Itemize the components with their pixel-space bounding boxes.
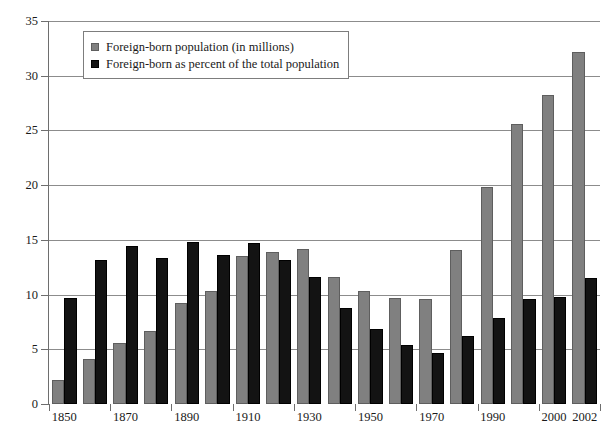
legend-label-population: Foreign-born population (in millions) [106,40,294,54]
y-axis-label: 30 [0,70,38,82]
gray-square-icon [91,43,99,51]
bar-percent [370,329,382,405]
bar-percent [462,336,474,404]
bar-population [328,277,340,404]
bar-percent [585,278,597,404]
x-axis-tick [294,404,295,411]
bar-population [389,298,401,404]
bar-chart: 05101520253035 1850187018901910193019501… [0,0,615,425]
bar-percent [64,298,76,404]
legend-item-population: Foreign-born population (in millions) [91,38,339,55]
bar-percent [554,297,566,404]
y-axis-label: 25 [0,124,38,136]
bar-population [358,291,370,404]
x-axis-tick [355,404,356,411]
legend-label-percent: Foreign-born as percent of the total pop… [106,57,339,71]
x-axis-tick [478,404,479,411]
bar-percent [248,243,260,404]
bar-population [542,95,554,404]
bar-population [511,124,523,404]
x-axis-label: 1990 [480,411,505,424]
x-axis-tick [49,404,50,411]
bar-population [52,380,64,404]
y-axis-label: 0 [0,398,38,410]
y-axis-label: 10 [0,289,38,301]
bar-percent [523,299,535,404]
y-axis-tick [41,21,49,22]
x-axis-tick [110,404,111,411]
y-axis-tick [41,349,49,350]
bar-population [572,52,584,404]
bar-percent [126,246,138,404]
y-axis-tick [41,295,49,296]
bar-percent [309,277,321,404]
x-axis-tick [416,404,417,411]
bar-population [481,187,493,404]
y-axis-label: 35 [0,15,38,27]
y-axis-label: 20 [0,179,38,191]
x-axis-label: 1950 [358,411,383,424]
x-axis-tick [233,404,234,411]
y-axis-tick [41,404,49,405]
y-axis-tick [41,240,49,241]
bar-percent [187,242,199,404]
bar-population [83,359,95,404]
bar-percent [493,318,505,404]
y-axis-tick [41,185,49,186]
y-axis-tick [41,130,49,131]
bar-percent [279,260,291,404]
x-axis-tick [539,404,540,411]
bar-population [144,331,156,404]
bar-population [419,299,431,404]
x-axis-tick [171,404,172,411]
x-axis-label: 1910 [235,411,260,424]
bar-population [236,256,248,404]
x-axis-label: 1970 [419,411,444,424]
bar-percent [340,308,352,404]
legend: Foreign-born population (in millions) Fo… [83,31,349,79]
bar-population [205,291,217,404]
x-axis-label: 2002 [572,411,597,424]
x-axis-label: 1850 [52,411,77,424]
x-axis-tick [600,404,601,411]
x-axis-label: 1870 [113,411,138,424]
y-axis-label: 15 [0,234,38,246]
bar-percent [432,353,444,404]
y-axis-label: 5 [0,343,38,355]
y-axis-tick [41,76,49,77]
bar-population [113,343,125,404]
x-axis-label: 2000 [542,411,567,424]
legend-item-percent: Foreign-born as percent of the total pop… [91,55,339,72]
bar-percent [401,345,413,404]
bar-population [266,252,278,404]
bar-population [450,250,462,404]
black-square-icon [91,60,99,68]
bar-percent [156,258,168,404]
bar-percent [95,260,107,404]
bar-percent [217,255,229,404]
bar-population [175,303,187,404]
x-axis-label: 1930 [297,411,322,424]
x-axis-label: 1890 [174,411,199,424]
bar-population [297,249,309,404]
